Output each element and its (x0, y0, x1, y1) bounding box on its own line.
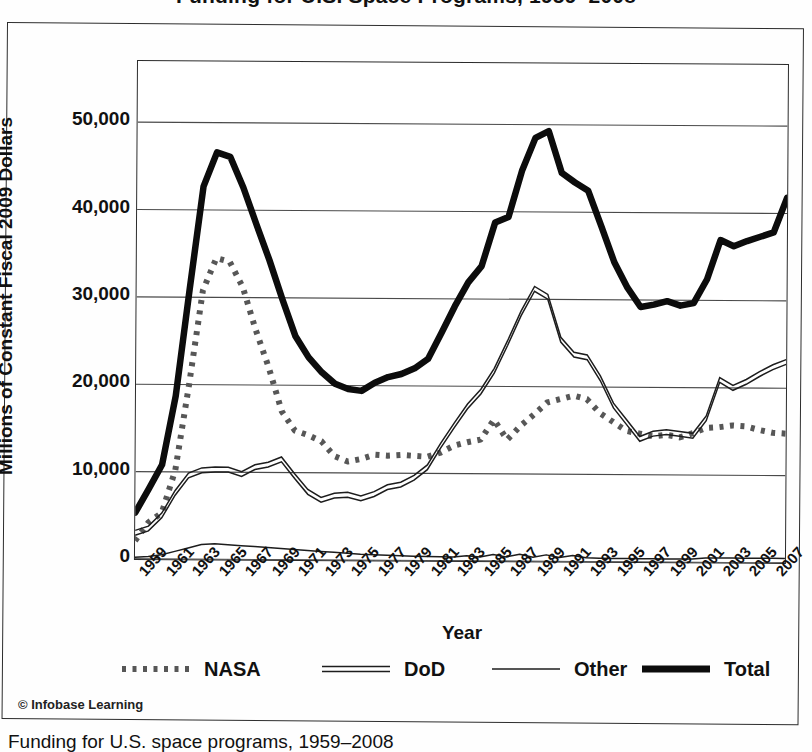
plot-area (134, 60, 789, 564)
legend-item-other: Other (490, 652, 627, 686)
legend-label: Total (724, 658, 770, 681)
y-axis-tick-labels: 010,00020,00030,00040,00050,000 (18, 60, 130, 560)
y-axis-tick-label: 40,000 (30, 196, 130, 218)
series-line-dod (135, 284, 786, 534)
gridline (137, 210, 787, 214)
y-axis-tick-label: 50,000 (30, 108, 130, 130)
legend-item-total: Total (640, 652, 770, 686)
gridline (138, 122, 788, 126)
y-axis-tick-label: 20,000 (30, 370, 130, 392)
x-axis-title: Year (137, 622, 787, 644)
legend-label: NASA (204, 658, 261, 681)
x-axis-tick-labels: 1959196119631965196719691971197319751977… (137, 566, 792, 624)
legend-swatch-other (490, 659, 562, 679)
legend-item-nasa: NASA (120, 652, 261, 686)
gridlines (135, 122, 788, 563)
legend-swatch-nasa (120, 659, 192, 679)
legend-swatch-dod (320, 659, 392, 679)
gridline (136, 384, 786, 388)
y-axis-tick-label: 0 (30, 545, 130, 567)
y-axis-tick-label: 30,000 (30, 283, 130, 305)
figure-caption: Funding for U.S. space programs, 1959–20… (8, 733, 394, 752)
legend-label: Other (574, 658, 627, 681)
series-line-total (135, 129, 787, 517)
legend-item-dod: DoD (320, 652, 445, 686)
legend-swatch-total (640, 659, 712, 679)
chart-legend: NASADoDOtherTotal (120, 652, 780, 686)
legend-label: DoD (404, 658, 445, 681)
figure-caption-clip: Funding for U.S. space programs, 1959–20… (0, 733, 812, 752)
page-title: Funding for U.S. Space Programs, 1959–20… (0, 0, 812, 8)
copyright-notice: © Infobase Learning (18, 697, 143, 712)
chart-title-strip: Funding for U.S. Space Programs, 1959–20… (0, 0, 812, 18)
chart-canvas (135, 61, 788, 563)
y-axis-tick-label: 10,000 (30, 458, 130, 480)
scanned-page: Funding for U.S. Space Programs, 1959–20… (0, 0, 812, 752)
y-axis-title: Millions of Constant Fiscal 2009 Dollars (0, 36, 17, 556)
data-series-layer (135, 129, 788, 562)
